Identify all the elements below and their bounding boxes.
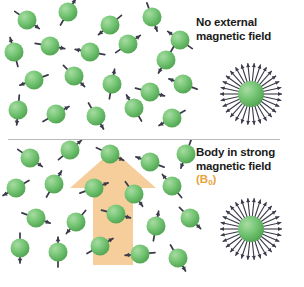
proton-spin	[136, 83, 165, 102]
burst-ray	[241, 104, 248, 123]
caption-strong-magnetic-field: Body in strong magnetic field	[196, 146, 275, 173]
proton-spin	[35, 37, 65, 56]
proton-sphere	[91, 237, 110, 256]
burst-ray	[221, 96, 241, 101]
proton-spin	[103, 69, 122, 99]
proton-spin	[87, 237, 113, 256]
proton-spin	[11, 233, 30, 263]
burst-ray	[262, 96, 282, 101]
proton-sphere	[9, 101, 28, 120]
proton-sphere	[177, 145, 196, 164]
spin-arrowhead	[18, 259, 23, 263]
proton-spin	[125, 95, 144, 121]
proton-spin	[99, 15, 122, 34]
proton-sphere	[21, 149, 40, 168]
proton-sphere	[41, 37, 60, 56]
proton-sphere	[131, 245, 150, 264]
proton-sphere	[101, 16, 120, 35]
burst-ray	[262, 231, 282, 236]
burst-ray	[262, 221, 282, 226]
burst-ray	[254, 200, 261, 219]
proton-sphere	[143, 8, 162, 27]
proton-spin	[45, 171, 64, 197]
proton-sphere	[181, 209, 200, 228]
burst-ray	[241, 239, 248, 258]
proton-spin	[159, 109, 185, 128]
proton-sphere	[61, 141, 80, 160]
proton-sphere	[107, 205, 126, 224]
proton-sphere	[18, 11, 37, 30]
burst-ray	[262, 92, 282, 96]
proton-spin	[168, 31, 193, 50]
proton-sphere	[45, 175, 64, 194]
proton-spin	[136, 153, 164, 172]
proton-sphere	[47, 105, 66, 124]
caption-no-external-field: No external magnetic field	[196, 16, 271, 43]
proton-sphere	[103, 75, 122, 94]
proton-spin	[22, 209, 50, 228]
proton-sphere	[81, 43, 100, 62]
proton-sphere	[11, 239, 30, 258]
proton-sphere	[125, 185, 144, 204]
proton-sphere	[163, 109, 182, 128]
burst-ray	[254, 65, 261, 84]
proton-sphere	[27, 209, 46, 228]
proton-spin	[5, 38, 24, 67]
proton-sphere	[157, 51, 176, 70]
proton-spin	[80, 179, 108, 198]
proton-sphere	[67, 213, 86, 232]
proton-sphere	[125, 99, 144, 118]
proton-sphere	[119, 35, 138, 54]
proton-spin	[162, 175, 181, 198]
proton-sphere	[59, 3, 78, 22]
spin-arrowhead	[56, 237, 61, 241]
proton-sphere	[5, 43, 24, 62]
proton-spin	[125, 182, 144, 207]
proton-sphere	[147, 217, 166, 236]
burst-ray	[220, 227, 240, 231]
proton-spin	[75, 43, 105, 62]
proton-sphere	[49, 243, 68, 262]
proton-sphere	[141, 153, 160, 172]
proton-sphere	[25, 71, 44, 90]
spin-burst-aligned-icon	[215, 193, 287, 265]
proton-spin	[87, 103, 106, 129]
proton-spin	[9, 95, 28, 125]
burst-ray	[241, 200, 248, 219]
burst-ray	[221, 86, 241, 91]
burst-ray	[221, 221, 241, 226]
proton-sphere	[141, 83, 160, 102]
proton-sphere	[174, 75, 193, 94]
field-strength-symbol: (B0)	[196, 173, 216, 188]
burst-ray	[262, 227, 282, 231]
proton-spin	[143, 3, 162, 31]
proton-spin	[169, 75, 197, 94]
proton-sphere	[163, 177, 182, 196]
proton-spin	[179, 207, 200, 228]
burst-ray	[262, 86, 282, 91]
proton-spin	[59, 0, 78, 25]
proton-spin	[177, 140, 196, 168]
proton-sphere	[87, 107, 106, 126]
proton-spin	[96, 145, 123, 164]
field-symbol-subscript: 0	[208, 178, 212, 187]
spin-arrowhead	[15, 121, 20, 125]
proton-spin	[3, 179, 29, 198]
proton-spin	[125, 245, 155, 264]
proton-sphere	[65, 67, 84, 86]
proton-spin	[43, 105, 69, 124]
burst-ray	[254, 104, 261, 123]
proton-spin	[147, 211, 166, 241]
proton-spin	[49, 237, 68, 267]
burst-ray	[241, 65, 248, 84]
burst-core-sphere	[238, 81, 264, 107]
proton-spin	[102, 205, 131, 224]
proton-sphere	[85, 179, 104, 198]
proton-spin	[66, 211, 85, 234]
proton-spin	[15, 11, 40, 30]
proton-spin	[18, 149, 43, 168]
burst-ray	[220, 92, 240, 96]
proton-spin	[59, 140, 82, 159]
proton-spin	[63, 65, 84, 86]
proton-sphere	[169, 249, 188, 268]
